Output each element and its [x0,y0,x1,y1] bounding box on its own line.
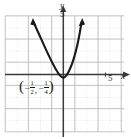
vertex-coordinate-label: ( – 1 2 , – 1 4 ) [19,80,54,95]
close-paren: ) [49,79,54,94]
graph-figure: y 5 x 5 ( – 1 2 , – 1 4 ) [0,0,131,139]
plot-area [0,0,131,139]
x-tick-label-5: 5 [108,74,113,83]
open-paren: ( [19,79,24,94]
y-tick-label-5: 5 [60,10,65,19]
x-axis-label: x [121,72,125,81]
coordinate-comma: , [35,86,37,95]
grid [5,16,124,132]
